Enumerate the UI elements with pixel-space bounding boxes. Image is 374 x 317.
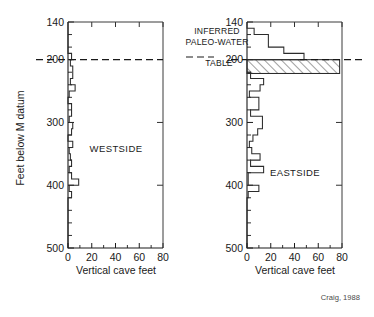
y-axis-title: Feet below M datum — [14, 90, 26, 185]
right-y-tick-label: 300 — [225, 116, 243, 128]
right-axis-lines — [247, 22, 342, 248]
annotation-line-2: PALEO-WATER — [185, 37, 248, 47]
inferred-paleo-water-table-band — [247, 60, 340, 74]
left-y-tick-label: 300 — [46, 116, 64, 128]
annotation-line-3: TABLE — [205, 58, 233, 68]
left-x-tick-label: 80 — [157, 251, 169, 263]
eastside-step-profile — [247, 22, 304, 248]
right-y-tick-label: 400 — [225, 179, 243, 191]
left-x-tick-label: 40 — [110, 251, 122, 263]
left-x-tick-label: 0 — [65, 251, 71, 263]
left-y-tick-label: 500 — [46, 242, 64, 254]
right-plot-frame — [247, 22, 342, 248]
right-x-tick-label: 40 — [289, 251, 301, 263]
right-x-tick-labels: 020406080 — [244, 251, 348, 263]
right-x-tick-label: 80 — [336, 251, 348, 263]
eastside-panel-label: EASTSIDE — [270, 167, 320, 178]
westside-step-profile — [68, 22, 79, 248]
left-axis-lines — [68, 22, 163, 248]
source-credit: Craig, 1988 — [321, 293, 360, 302]
left-x-tick-label: 60 — [133, 251, 145, 263]
right-x-tick-label: 60 — [312, 251, 324, 263]
right-x-tick-label: 0 — [244, 251, 250, 263]
right-y-tick-label: 500 — [225, 242, 243, 254]
right-x-axis-title: Vertical cave feet — [255, 264, 335, 276]
panel-westside: 140200300400500 020406080 WESTSIDE Verti… — [36, 16, 169, 276]
left-plot-frame — [68, 22, 163, 248]
left-x-axis-title: Vertical cave feet — [76, 264, 156, 276]
left-x-tick-labels: 020406080 — [65, 251, 169, 263]
annotation-line-1: INFERRED — [194, 26, 240, 36]
westside-panel-label: WESTSIDE — [90, 143, 143, 154]
panel-eastside: 140200300400500 020406080 EASTSIDE Verti… — [225, 16, 366, 276]
left-y-tick-labels: 140200300400500 — [46, 16, 64, 254]
left-y-tick-label: 400 — [46, 179, 64, 191]
cave-depth-profile-figure: Feet below M datum 140200300400500 02040… — [0, 0, 374, 317]
left-tick-marks — [68, 22, 163, 248]
figure-svg: Feet below M datum 140200300400500 02040… — [0, 0, 374, 317]
y-axis-title-group: Feet below M datum — [14, 90, 26, 185]
right-x-tick-label: 20 — [265, 251, 277, 263]
right-y-tick-labels: 140200300400500 — [225, 16, 243, 254]
left-x-tick-label: 20 — [86, 251, 98, 263]
left-y-tick-label: 140 — [46, 16, 64, 28]
right-tick-marks — [247, 22, 342, 248]
